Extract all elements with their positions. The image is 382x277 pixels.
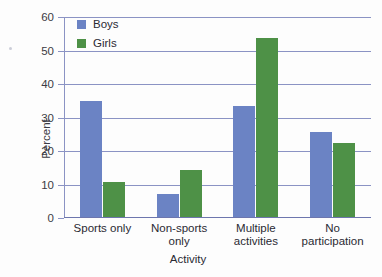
y-tick-label-60: 60: [41, 11, 54, 23]
y-tick-label-20: 20: [41, 145, 54, 157]
category-label: Sports only: [74, 222, 132, 235]
bar-girls: [103, 182, 125, 217]
bar-group: [233, 16, 278, 217]
scan-artifact-speck: [9, 47, 12, 50]
category-label: Multiple activities: [234, 222, 278, 248]
category-label: Non-sports only: [151, 222, 207, 248]
bar-girls: [256, 38, 278, 217]
bar-boys: [157, 194, 179, 217]
y-tick-label-30: 30: [41, 112, 54, 124]
legend-item-boys: Boys: [77, 17, 119, 31]
bar-boys: [80, 101, 102, 217]
boys-swatch-icon: [77, 20, 86, 29]
x-axis-title: Activity: [170, 253, 206, 265]
y-tick-label-40: 40: [41, 78, 54, 90]
bar-group: [157, 16, 202, 217]
bar-girls: [333, 143, 355, 217]
bar-boys: [233, 106, 255, 217]
legend-label-boys: Boys: [93, 18, 119, 30]
bar-group: [310, 16, 355, 217]
legend: Boys Girls: [77, 17, 119, 55]
category-label: No participation: [302, 222, 364, 248]
girls-swatch-icon: [77, 39, 86, 48]
legend-label-girls: Girls: [93, 37, 117, 49]
y-tick-0: [58, 218, 64, 219]
grouped-bar-chart: Percent 0102030405060 Sports onlyNon-spo…: [0, 0, 382, 277]
legend-item-girls: Girls: [77, 36, 119, 50]
y-tick-label-0: 0: [48, 212, 54, 224]
bar-boys: [310, 132, 332, 217]
bar-girls: [180, 170, 202, 217]
y-tick-label-50: 50: [41, 45, 54, 57]
y-tick-label-10: 10: [41, 179, 54, 191]
